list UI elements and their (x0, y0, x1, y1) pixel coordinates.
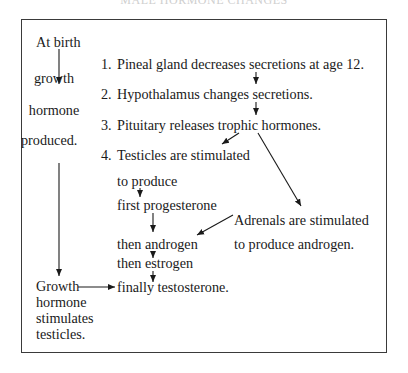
first-progesterone-label: first progesterone (117, 197, 217, 213)
step-1-number: 1. (101, 56, 112, 72)
step-3-number: 3. (101, 117, 112, 133)
produced-label: produced. (21, 132, 77, 148)
then-estrogen-label: then estrogen (117, 255, 193, 271)
finally-testosterone-label: finally testosterone. (117, 279, 229, 295)
step-4-number: 4. (101, 147, 112, 163)
growth-label: growth (22, 70, 86, 86)
step-3-text: Pituitary releases trophic hormones. (117, 117, 321, 133)
step-1-text: Pineal gland decreases secretions at age… (117, 56, 364, 72)
step-2-number: 2. (101, 86, 112, 102)
hormone-label: hormone (22, 102, 86, 118)
result-growth: Growth (36, 278, 79, 294)
result-stimulates: stimulates (36, 310, 94, 326)
figure-title: MALE HORMONE CHANGES (0, 0, 408, 8)
adrenals-line-2: to produce androgen. (234, 236, 354, 252)
then-androgen-label: then androgen (117, 236, 198, 252)
to-produce-label: to produce (117, 173, 177, 189)
step-2-text: Hypothalamus changes secretions. (117, 86, 313, 102)
adrenals-line-1: Adrenals are stimulated (234, 212, 369, 228)
at-birth-label: At birth (36, 34, 81, 50)
result-hormone: hormone (36, 294, 86, 310)
result-testicles: testicles. (36, 326, 85, 342)
step-4-text: Testicles are stimulated (117, 147, 250, 163)
